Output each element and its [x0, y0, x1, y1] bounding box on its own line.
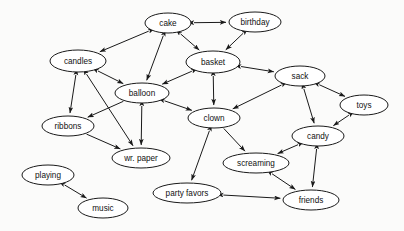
- node-shape-candy[interactable]: [292, 126, 344, 146]
- edge-candles-to-ribbons: [70, 75, 76, 113]
- node-layer: cakebirthdaycandlesbasketsackballoontoys…: [22, 12, 388, 218]
- edge-candy-to-screaming: [278, 145, 298, 154]
- node-ribbons[interactable]: ribbons: [42, 116, 94, 136]
- edge-cake-to-basket: [181, 34, 200, 50]
- node-playing[interactable]: playing: [22, 165, 74, 185]
- node-shape-candles[interactable]: [50, 50, 106, 72]
- node-shape-sack[interactable]: [275, 66, 325, 86]
- edge-party_favors-to-friends: [223, 195, 280, 198]
- node-candles[interactable]: candles: [50, 50, 106, 72]
- edge-candy-to-friends: [312, 149, 316, 187]
- node-shape-party_favors[interactable]: [153, 183, 221, 203]
- node-toys[interactable]: toys: [340, 95, 388, 115]
- node-clown[interactable]: clown: [188, 108, 240, 128]
- node-shape-cake[interactable]: [145, 13, 191, 33]
- node-shape-playing[interactable]: [22, 165, 74, 185]
- edge-basket-to-balloon: [162, 71, 192, 84]
- edge-ribbons-to-wr_paper: [87, 134, 121, 149]
- node-birthday[interactable]: birthday: [229, 12, 281, 32]
- edge-screaming-to-friends: [272, 174, 295, 190]
- edge-candles-to-balloon: [98, 71, 123, 84]
- node-shape-music[interactable]: [78, 198, 128, 218]
- node-shape-wr_paper[interactable]: [112, 148, 170, 168]
- node-cake[interactable]: cake: [145, 13, 191, 33]
- edge-sack-to-candy: [304, 89, 314, 123]
- node-shape-balloon[interactable]: [115, 83, 169, 103]
- edge-toys-to-candy: [333, 115, 349, 125]
- node-screaming[interactable]: screaming: [223, 153, 289, 173]
- edge-balloon-to-wr_paper: [141, 106, 142, 145]
- node-shape-clown[interactable]: [188, 108, 240, 128]
- edge-sack-to-toys: [319, 85, 345, 97]
- node-friends[interactable]: friends: [283, 190, 339, 210]
- node-shape-basket[interactable]: [186, 51, 240, 73]
- edge-basket-to-sack: [241, 67, 274, 72]
- node-candy[interactable]: candy: [292, 126, 344, 146]
- edge-clown-to-party_favors: [192, 131, 210, 181]
- node-shape-toys[interactable]: [340, 95, 388, 115]
- diagram-canvas: cakebirthdaycandlesbasketsackballoontoys…: [0, 0, 404, 231]
- edge-birthday-to-basket: [226, 33, 243, 49]
- node-music[interactable]: music: [78, 198, 128, 218]
- node-sack[interactable]: sack: [275, 66, 325, 86]
- node-wr_paper[interactable]: wr. paper: [112, 148, 170, 168]
- node-shape-birthday[interactable]: [229, 12, 281, 32]
- node-shape-screaming[interactable]: [223, 153, 289, 173]
- edge-balloon-to-clown: [165, 101, 192, 110]
- association-graph: cakebirthdaycandlesbasketsackballoontoys…: [0, 0, 404, 231]
- node-balloon[interactable]: balloon: [115, 83, 169, 103]
- node-shape-friends[interactable]: [283, 190, 339, 210]
- edge-cake-to-candles: [100, 31, 149, 52]
- node-shape-ribbons[interactable]: [42, 116, 94, 136]
- edge-sack-to-clown: [233, 85, 282, 109]
- node-basket[interactable]: basket: [186, 51, 240, 73]
- edge-cake-to-balloon: [147, 36, 164, 81]
- edge-basket-to-clown: [213, 76, 214, 105]
- node-party_favors[interactable]: party favors: [153, 183, 221, 203]
- edge-playing-to-music: [65, 185, 87, 198]
- edge-clown-to-screaming: [224, 129, 245, 152]
